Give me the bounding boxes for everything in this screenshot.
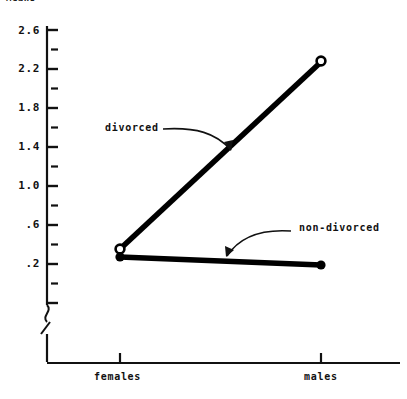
y-tick-label: 1.0 (4, 179, 40, 192)
y-tick-label: .2 (4, 257, 40, 270)
chart-canvas (0, 0, 407, 399)
divorced-marker-males (317, 57, 326, 66)
series-divorced (116, 57, 326, 254)
y-tick-label: 1.4 (4, 140, 40, 153)
series-non-divorced (115, 252, 325, 269)
y-tick-label: .6 (4, 218, 40, 231)
divorced-line (120, 62, 321, 249)
y-tick-label: 1.8 (4, 101, 40, 114)
y-tick-label: 2.2 (4, 62, 40, 75)
line-chart: Means (0, 0, 407, 399)
divorced-annotation-arrow (163, 129, 233, 151)
non-divorced-annotation-label: non-divorced (299, 222, 380, 233)
y-tick-label: 2.6 (4, 24, 40, 37)
non-divorced-marker-males (316, 260, 325, 269)
x-tick-label-females: females (94, 371, 141, 382)
divorced-marker-females (116, 245, 125, 254)
y-axis-break-icon (45, 305, 48, 322)
non-divorced-annotation-arrow (225, 231, 291, 257)
y-axis-break-tick-icon (41, 322, 50, 334)
non-divorced-line (120, 257, 321, 265)
x-tick-label-males: males (304, 371, 338, 382)
non-divorced-marker-females (115, 252, 124, 261)
x-ticks (120, 353, 321, 363)
divorced-annotation-label: divorced (105, 122, 159, 133)
y-minor-ticks (51, 50, 58, 284)
